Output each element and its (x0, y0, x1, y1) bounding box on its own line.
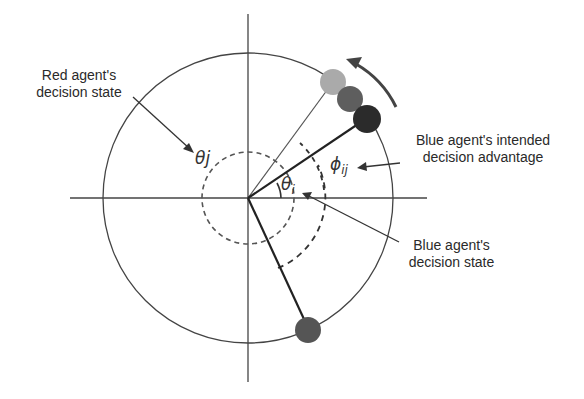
advantage-arrowhead (357, 162, 367, 171)
theta-i-symbol: θi (281, 174, 295, 197)
blue-state-label: Blue agent's decision state (399, 237, 504, 271)
phi-ij-symbol: ϕij (330, 154, 348, 177)
blue-state-line (248, 118, 367, 198)
red-state-label: Red agent's decision state (24, 67, 134, 101)
phase-diagram (0, 0, 584, 399)
theta-j-symbol: θj (195, 148, 210, 168)
blue-state-pointer (307, 195, 399, 242)
blue-advantage-label: Blue agent's intended decision advantage (403, 132, 563, 166)
advantage-pointer (363, 163, 400, 167)
red-state-line (248, 198, 309, 330)
red-state-pointer (133, 97, 190, 149)
blue-state-arrowhead (302, 192, 312, 200)
red-agent-ball (295, 317, 321, 343)
blue-agent-ball (353, 105, 381, 133)
